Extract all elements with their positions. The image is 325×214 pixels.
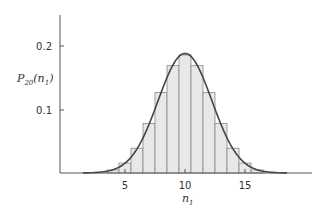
y-tick-label-0.2: 0.2 (36, 41, 52, 52)
x-tick-label-10: 10 (179, 180, 192, 191)
histogram-bar (143, 123, 155, 173)
histogram-bar (179, 55, 191, 173)
y-axis-title: P20(n1) (16, 72, 53, 87)
histogram-bar (215, 123, 227, 173)
histogram-bar (131, 148, 143, 173)
x-tick-label-5: 5 (122, 180, 128, 191)
x-tick-label-15: 15 (239, 180, 252, 191)
x-title-main: n (182, 192, 189, 205)
x-axis-title: n1 (182, 192, 194, 207)
histogram-bar (191, 66, 203, 173)
y-tick-label-0.1: 0.1 (36, 105, 52, 116)
y-title-subscript-20: 20 (23, 79, 33, 87)
histogram-bars (107, 55, 263, 173)
y-title-arg-open: (n (33, 72, 44, 85)
y-title-arg-close: ) (48, 72, 53, 85)
binomial-histogram-chart: 0.2 0.1 5 10 15 n1 P20(n1) (0, 0, 325, 214)
histogram-bar (227, 148, 239, 173)
x-title-subscript: 1 (189, 199, 193, 207)
histogram-bar (167, 66, 179, 173)
